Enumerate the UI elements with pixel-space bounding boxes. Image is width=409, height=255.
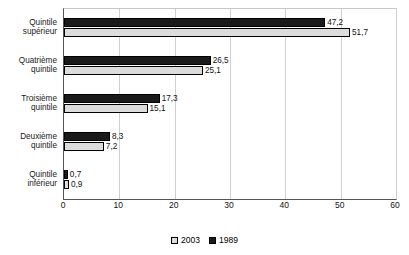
bar-value-label: 0,7 [70, 170, 81, 179]
bar-value-label: 26,5 [213, 56, 229, 65]
category-label-line: Quintile [0, 18, 57, 28]
legend-label: 1989 [219, 235, 238, 245]
category-label: Quintileinférieur [0, 170, 57, 189]
legend-entry-2003: 2003 [171, 235, 200, 245]
x-axis-tick-labels: 0102030405060 [63, 200, 396, 216]
bar-1989-0 [64, 18, 325, 27]
bar-value-label: 15,1 [150, 104, 166, 113]
category-label-line: Quatrième [0, 56, 57, 66]
category-label: Deuxièmequintile [0, 132, 57, 151]
x-tick-0: 0 [61, 200, 66, 210]
category-label-line: Quintile [0, 170, 57, 180]
category-axis-labels: QuintilesupérieurQuatrièmequintileTroisi… [0, 8, 60, 198]
bar-2003-4 [64, 180, 69, 189]
bar-value-label: 47,2 [327, 18, 343, 27]
legend-swatch-2003 [171, 237, 178, 244]
bar-value-label: 8,3 [112, 132, 123, 141]
category-label-line: supérieur [0, 27, 57, 37]
bar-value-label: 17,3 [162, 94, 178, 103]
bar-value-label: 7,2 [106, 142, 117, 151]
bar-group: 26,525,1 [64, 47, 396, 85]
category-label: Troisièmequintile [0, 94, 57, 113]
chart-legend: 20031989 [0, 232, 409, 248]
bar-2003-1 [64, 66, 203, 75]
legend-swatch-1989 [209, 237, 216, 244]
bar-group: 17,315,1 [64, 85, 396, 123]
x-tick-40: 40 [280, 200, 289, 210]
category-label-line: quintile [0, 103, 57, 113]
plot-area: 47,251,726,525,117,315,18,37,20,70,9 [63, 8, 397, 200]
bar-1989-4 [64, 170, 68, 179]
x-tick-10: 10 [114, 200, 123, 210]
x-tick-20: 20 [169, 200, 178, 210]
category-label-line: Deuxième [0, 132, 57, 142]
category-label: Quintilesupérieur [0, 18, 57, 37]
gridline-60 [396, 9, 397, 199]
bar-group: 47,251,7 [64, 9, 396, 47]
bar-chart: QuintilesupérieurQuatrièmequintileTroisi… [0, 0, 409, 255]
bar-value-label: 51,7 [352, 28, 368, 37]
x-tick-30: 30 [224, 200, 233, 210]
x-tick-60: 60 [390, 200, 399, 210]
legend-entry-1989: 1989 [209, 235, 238, 245]
bar-1989-1 [64, 56, 211, 65]
bar-group: 8,37,2 [64, 123, 396, 161]
bar-2003-0 [64, 28, 350, 37]
x-tick-50: 50 [335, 200, 344, 210]
category-label-line: inférieur [0, 179, 57, 189]
bar-1989-3 [64, 132, 110, 141]
bar-2003-2 [64, 104, 148, 113]
bar-1989-2 [64, 94, 160, 103]
category-label-line: quintile [0, 141, 57, 151]
bar-group: 0,70,9 [64, 161, 396, 199]
category-label-line: Troisième [0, 94, 57, 104]
legend-label: 2003 [181, 235, 200, 245]
bar-2003-3 [64, 142, 104, 151]
category-label: Quatrièmequintile [0, 56, 57, 75]
bar-value-label: 0,9 [71, 180, 82, 189]
category-label-line: quintile [0, 65, 57, 75]
bar-value-label: 25,1 [205, 66, 221, 75]
